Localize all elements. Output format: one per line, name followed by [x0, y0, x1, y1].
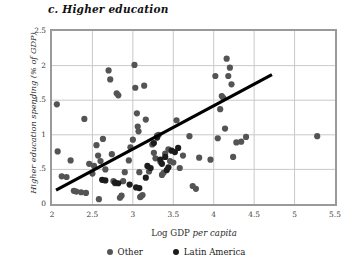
data-point	[67, 157, 73, 163]
y-tick-label: 2.5	[20, 26, 46, 35]
data-point	[175, 145, 181, 151]
data-point	[54, 101, 60, 107]
data-point	[132, 85, 138, 91]
y-tick-label: .5	[20, 164, 46, 173]
series-points-other	[54, 56, 321, 203]
data-point	[186, 133, 192, 139]
data-point	[143, 175, 149, 181]
x-tick-label: 2.5	[77, 210, 107, 219]
data-point	[151, 140, 157, 146]
chart-title: c. Higher education	[48, 3, 169, 15]
data-point	[196, 155, 202, 161]
x-tick-label: 5.5	[320, 210, 350, 219]
data-point	[134, 110, 140, 116]
data-point	[106, 67, 112, 73]
x-axis-label: Log GDP per capita	[50, 228, 338, 238]
data-point	[243, 134, 249, 140]
x-tick-label: 2	[37, 210, 67, 219]
x-tick-label: 3.5	[158, 210, 188, 219]
y-tick-label: 1	[20, 130, 46, 139]
data-point	[63, 174, 69, 180]
y-axis-label: Higher education spending (% of GDP)	[28, 18, 38, 208]
data-point	[107, 76, 113, 82]
x-axis-label-text: Log GDP per capita	[151, 228, 237, 238]
y-tick-label: 2	[20, 61, 46, 70]
data-point	[207, 157, 213, 163]
x-tick-label: 4	[199, 210, 229, 219]
data-point	[100, 136, 106, 142]
data-point	[212, 73, 218, 79]
y-tick-label: 0	[20, 199, 46, 208]
data-point	[225, 73, 231, 79]
data-point	[136, 185, 142, 191]
legend-dot-icon	[107, 249, 113, 255]
data-point	[165, 164, 171, 170]
data-point	[96, 196, 102, 202]
legend-label: Other	[118, 247, 143, 257]
data-point	[102, 177, 108, 183]
data-point	[173, 117, 179, 123]
data-point	[177, 165, 183, 171]
data-point	[135, 128, 141, 134]
data-point	[139, 192, 145, 198]
x-tick-label: 3	[118, 210, 148, 219]
plot-area	[50, 29, 337, 206]
data-point	[314, 133, 320, 139]
data-point	[141, 83, 147, 89]
data-point	[228, 81, 234, 87]
legend-label: Latin America	[184, 247, 246, 257]
chart-legend: OtherLatin America	[0, 247, 352, 257]
data-point	[118, 193, 124, 199]
data-point	[227, 65, 233, 71]
data-point	[130, 137, 136, 143]
x-tick-label: 5	[280, 210, 310, 219]
data-point	[230, 154, 236, 160]
data-point	[151, 150, 157, 156]
data-point	[238, 139, 244, 145]
legend-item-other[interactable]: Other	[107, 247, 143, 257]
data-point	[136, 169, 142, 175]
data-point	[93, 142, 99, 148]
data-point	[215, 135, 221, 141]
scatter-plot-canvas	[52, 31, 335, 204]
data-point	[143, 116, 149, 122]
data-point	[148, 165, 154, 171]
data-point	[159, 161, 165, 167]
data-point	[115, 180, 121, 186]
data-point	[222, 125, 228, 131]
chart-figure: c. Higher education Higher education spe…	[0, 0, 352, 270]
data-point	[102, 166, 108, 172]
data-point	[180, 152, 186, 158]
data-point	[115, 92, 121, 98]
data-point	[83, 190, 89, 196]
legend-item-latin-america[interactable]: Latin America	[173, 247, 246, 257]
data-point	[162, 154, 168, 160]
legend-dot-icon	[173, 249, 179, 255]
y-tick-label: 1.5	[20, 95, 46, 104]
data-point	[217, 106, 223, 112]
data-point	[131, 62, 137, 68]
data-point	[126, 157, 132, 163]
data-point	[122, 169, 128, 175]
data-point	[127, 182, 133, 188]
data-point	[193, 186, 199, 192]
data-point	[81, 116, 87, 122]
data-point	[97, 158, 103, 164]
data-point	[95, 152, 101, 158]
x-tick-label: 4.5	[239, 210, 269, 219]
data-point	[224, 56, 230, 62]
data-point	[55, 148, 61, 154]
data-point	[109, 151, 115, 157]
data-point	[170, 159, 176, 165]
